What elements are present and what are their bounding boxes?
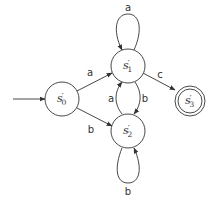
transition-s2-s1: a [108, 82, 122, 114]
transition-label: a [87, 67, 93, 78]
transition-label: b [88, 124, 94, 135]
transition-label: c [157, 69, 163, 80]
transition-label: b [125, 186, 131, 197]
transition-label: b [142, 93, 148, 104]
state-s0: s′0 [45, 82, 79, 116]
transition-s0-s1: a [77, 67, 112, 91]
state-diagram: a b a b a b c s′0 s′1 [0, 0, 218, 203]
state-s3-accepting: s′3 [175, 86, 205, 116]
transition-s1-self: a [116, 2, 139, 50]
transition-s2-self: b [117, 148, 139, 197]
state-s1: s′1 [111, 49, 145, 83]
transition-label: a [125, 2, 131, 13]
transition-s0-s2: b [77, 108, 112, 135]
transition-s1-s2: b [134, 82, 148, 114]
transition-label: a [108, 93, 114, 104]
transition-s1-s3: c [143, 69, 175, 90]
state-s2: s′2 [111, 114, 145, 148]
